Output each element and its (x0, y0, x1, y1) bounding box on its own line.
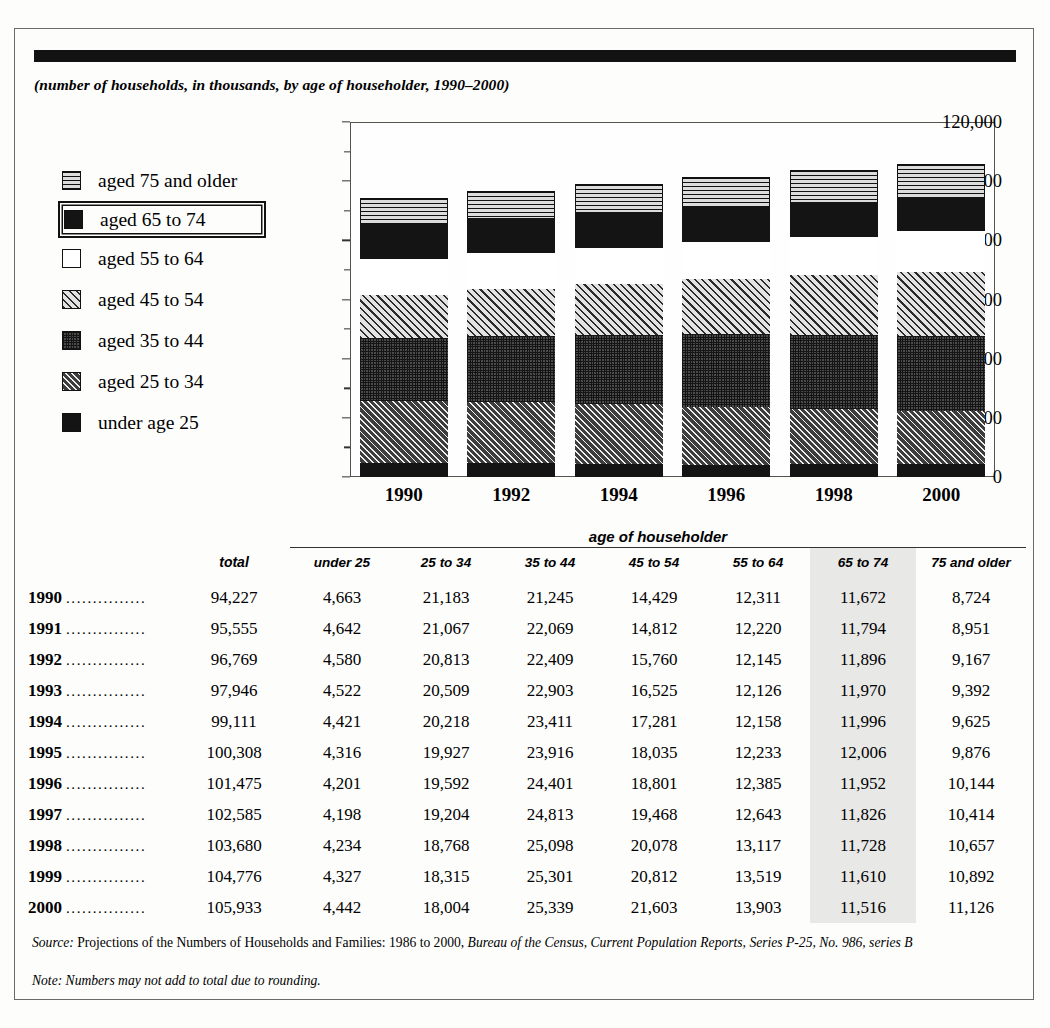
legend-swatch-white-icon (62, 249, 81, 268)
cell-75-and-older: 8,951 (916, 613, 1026, 644)
group-header-spacer (28, 528, 290, 547)
cell-under-25: 4,327 (290, 861, 394, 892)
cell-55-to-64: 12,126 (706, 675, 810, 706)
chart-subtitle: (number of households, in thousands, by … (34, 76, 510, 94)
cell-55-to-64: 13,903 (706, 892, 810, 923)
bar-1994[interactable] (575, 184, 663, 477)
source-plain: Projections of the Numbers of Households… (74, 935, 468, 950)
bar-2000[interactable] (897, 164, 985, 477)
cell-45-to-54: 16,525 (602, 675, 706, 706)
cell-under-25: 4,201 (290, 768, 394, 799)
year-value: 2000 (28, 898, 62, 917)
y-axis-tick (342, 299, 350, 300)
title-rule (34, 50, 1016, 62)
cell-35-to-44: 23,916 (498, 737, 602, 768)
year-value: 1998 (28, 836, 62, 855)
bar-segment-aged-55-to-64 (897, 231, 985, 272)
bar-1998[interactable] (790, 170, 878, 477)
legend-swatch-solid-black-icon (62, 413, 81, 432)
y-axis-tick (342, 358, 350, 359)
dot-leader: ............... (62, 776, 146, 792)
row-year-label: 1991............... (28, 613, 178, 644)
cell-total: 104,776 (178, 861, 290, 892)
legend-item-label: aged 75 and older (98, 170, 237, 192)
column-header-45-to-54: 45 to 54 (602, 548, 706, 582)
cell-65-to-74: 11,952 (810, 768, 916, 799)
bar-group (350, 122, 995, 477)
bar-1992[interactable] (467, 191, 555, 477)
table-row: 1999...............104,7764,32718,31525,… (28, 861, 1026, 892)
table-row: 1994...............99,1114,42120,21823,4… (28, 706, 1026, 737)
bar-segment-aged-75-and-older (682, 177, 770, 207)
column-header-25-to-34: 25 to 34 (394, 548, 498, 582)
cell-under-25: 4,198 (290, 799, 394, 830)
bar-segment-under-age-25 (897, 464, 985, 477)
legend-item-label: aged 25 to 34 (98, 371, 204, 393)
year-value: 1992 (28, 650, 62, 669)
cell-65-to-74: 11,826 (810, 799, 916, 830)
cell-45-to-54: 18,801 (602, 768, 706, 799)
legend-item-label: aged 45 to 54 (98, 289, 204, 311)
legend-item-label: aged 55 to 64 (98, 248, 204, 270)
cell-total: 103,680 (178, 830, 290, 861)
year-value: 1995 (28, 743, 62, 762)
cell-total: 94,227 (178, 582, 290, 613)
legend-item-aged-65-to-74[interactable]: aged 65 to 74 (58, 201, 266, 238)
footnotes: Source: Projections of the Numbers of Ho… (32, 935, 1022, 989)
bar-segment-aged-25-to-34 (575, 404, 663, 464)
cell-total: 97,946 (178, 675, 290, 706)
cell-65-to-74: 11,996 (810, 706, 916, 737)
cell-45-to-54: 18,035 (602, 737, 706, 768)
cell-under-25: 4,663 (290, 582, 394, 613)
cell-25-to-34: 20,218 (394, 706, 498, 737)
cell-35-to-44: 25,098 (498, 830, 602, 861)
cell-total: 101,475 (178, 768, 290, 799)
cell-45-to-54: 14,429 (602, 582, 706, 613)
legend-swatch-horizontal-lines-icon (62, 171, 81, 190)
row-year-label: 1996............... (28, 768, 178, 799)
legend-item-aged-25-to-34[interactable]: aged 25 to 34 (58, 361, 298, 402)
cell-35-to-44: 25,339 (498, 892, 602, 923)
table-body: 1990...............94,2274,66321,18321,2… (28, 582, 1026, 923)
table-row: 1991...............95,5554,64221,06722,0… (28, 613, 1026, 644)
cell-25-to-34: 18,004 (394, 892, 498, 923)
row-year-label: 1999............... (28, 861, 178, 892)
legend-item-aged-55-to-64[interactable]: aged 55 to 64 (58, 238, 298, 279)
bar-segment-aged-55-to-64 (682, 242, 770, 279)
bar-segment-aged-65-to-74 (682, 207, 770, 242)
cell-75-and-older: 9,625 (916, 706, 1026, 737)
dot-leader: ............... (62, 590, 146, 606)
bar-segment-under-age-25 (790, 464, 878, 477)
source-line: Source: Projections of the Numbers of Ho… (32, 935, 1022, 951)
bar-segment-aged-65-to-74 (790, 202, 878, 237)
bar-segment-under-age-25 (682, 465, 770, 477)
bar-segment-aged-55-to-64 (575, 248, 663, 284)
cell-55-to-64: 13,117 (706, 830, 810, 861)
cell-75-and-older: 11,126 (916, 892, 1026, 923)
bar-1996[interactable] (682, 177, 770, 477)
table-row: 1997...............102,5854,19819,20424,… (28, 799, 1026, 830)
cell-25-to-34: 21,183 (394, 582, 498, 613)
column-header-75-and-older: 75 and older (916, 548, 1026, 582)
cell-25-to-34: 18,768 (394, 830, 498, 861)
x-axis-tick-label: 1998 (779, 484, 889, 506)
cell-under-25: 4,442 (290, 892, 394, 923)
dot-leader: ............... (62, 807, 146, 823)
row-year-label: 1995............... (28, 737, 178, 768)
cell-total: 96,769 (178, 644, 290, 675)
legend-item-aged-75-and-older[interactable]: aged 75 and older (58, 160, 298, 201)
bar-1990[interactable] (360, 198, 448, 477)
bar-segment-aged-75-and-older (897, 164, 985, 197)
year-value: 1990 (28, 588, 62, 607)
cell-65-to-74: 11,794 (810, 613, 916, 644)
legend-item-under-age-25[interactable]: under age 25 (58, 402, 298, 443)
data-table: age of householder totalunder 2525 to 34… (28, 528, 1020, 923)
table-row: 2000...............105,9334,44218,00425,… (28, 892, 1026, 923)
cell-65-to-74: 11,610 (810, 861, 916, 892)
cell-under-25: 4,421 (290, 706, 394, 737)
legend-item-aged-35-to-44[interactable]: aged 35 to 44 (58, 320, 298, 361)
column-header-under-25: under 25 (290, 548, 394, 582)
legend-item-aged-45-to-54[interactable]: aged 45 to 54 (58, 279, 298, 320)
dot-leader: ............... (62, 745, 146, 761)
row-year-label: 1998............... (28, 830, 178, 861)
